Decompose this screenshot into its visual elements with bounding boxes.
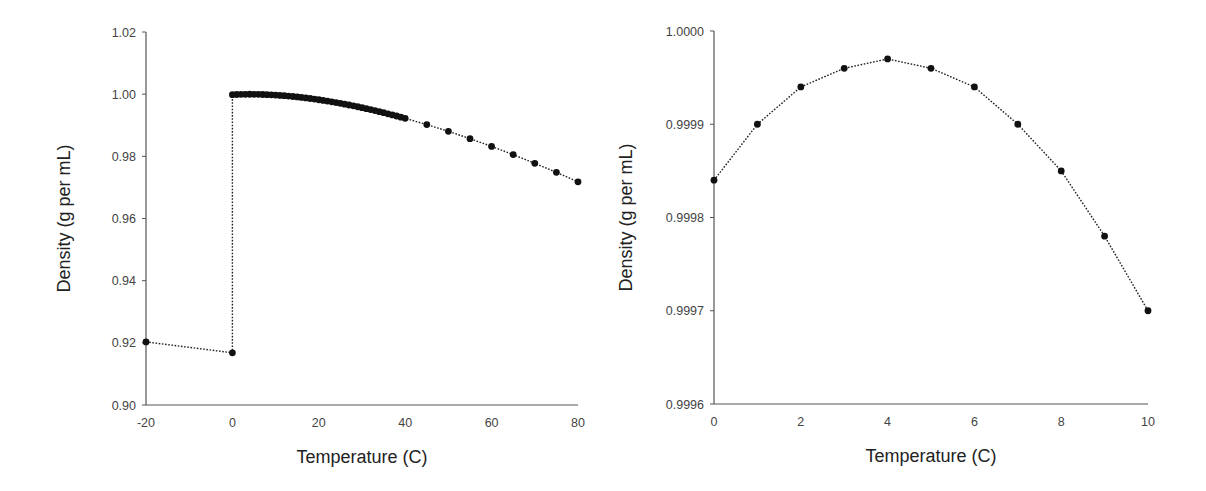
x-tick-label: 80 xyxy=(571,416,585,430)
x-tick-label: 6 xyxy=(971,415,978,429)
data-point xyxy=(841,65,848,72)
data-point xyxy=(1014,121,1021,128)
x-tick-label: 4 xyxy=(884,415,891,429)
y-tick-label: 0.96 xyxy=(112,212,136,226)
x-tick-label: 0 xyxy=(229,416,236,430)
data-point xyxy=(143,339,150,346)
data-point xyxy=(754,121,761,128)
y-axis-title: Density (g per mL) xyxy=(616,143,636,291)
y-axis-title: Density (g per mL) xyxy=(54,144,74,292)
y-tick-label: 0.9996 xyxy=(666,398,704,412)
x-tick-label: 2 xyxy=(797,415,804,429)
x-tick-label: 0 xyxy=(711,415,718,429)
x-tick-label: -20 xyxy=(137,416,155,430)
x-tick-label: 10 xyxy=(1141,415,1155,429)
y-tick-label: 1.0000 xyxy=(666,25,704,39)
y-tick-label: 0.98 xyxy=(112,150,136,164)
data-point xyxy=(445,128,452,135)
y-tick-label: 0.9999 xyxy=(666,118,704,132)
data-point xyxy=(884,56,891,63)
data-point xyxy=(229,349,236,356)
data-point xyxy=(711,177,718,184)
y-tick-label: 1.02 xyxy=(112,26,136,40)
data-point xyxy=(510,151,517,158)
data-point xyxy=(797,84,804,91)
x-axis-title: Temperature (C) xyxy=(296,447,427,467)
data-point xyxy=(928,65,935,72)
data-point xyxy=(553,169,560,176)
data-point xyxy=(531,160,538,167)
x-tick-label: 20 xyxy=(312,416,326,430)
y-tick-label: 0.92 xyxy=(112,336,136,350)
data-point xyxy=(1145,307,1152,314)
y-tick-label: 1.00 xyxy=(112,88,136,102)
data-line xyxy=(714,59,1148,311)
x-tick-label: 40 xyxy=(398,416,412,430)
data-point xyxy=(488,143,495,150)
x-tick-label: 8 xyxy=(1058,415,1065,429)
density-chart-zoomed: 0.99960.99970.99980.99991.00000246810Tem… xyxy=(616,25,1155,467)
y-tick-label: 0.9997 xyxy=(666,304,704,318)
data-point xyxy=(575,178,582,185)
y-tick-label: 0.90 xyxy=(112,399,136,413)
y-tick-label: 0.9998 xyxy=(666,211,704,225)
data-point xyxy=(1101,233,1108,240)
density-charts: 0.900.920.940.960.981.001.02-20020406080… xyxy=(0,0,1206,491)
x-tick-label: 60 xyxy=(485,416,499,430)
data-point xyxy=(971,84,978,91)
data-line xyxy=(146,94,578,353)
data-point xyxy=(423,121,430,128)
density-chart-full-range: 0.900.920.940.960.981.001.02-20020406080… xyxy=(54,26,585,468)
y-tick-label: 0.94 xyxy=(112,274,136,288)
x-axis-title: Temperature (C) xyxy=(865,446,996,466)
data-point xyxy=(402,115,409,122)
data-point xyxy=(467,135,474,142)
data-point xyxy=(1058,167,1065,174)
